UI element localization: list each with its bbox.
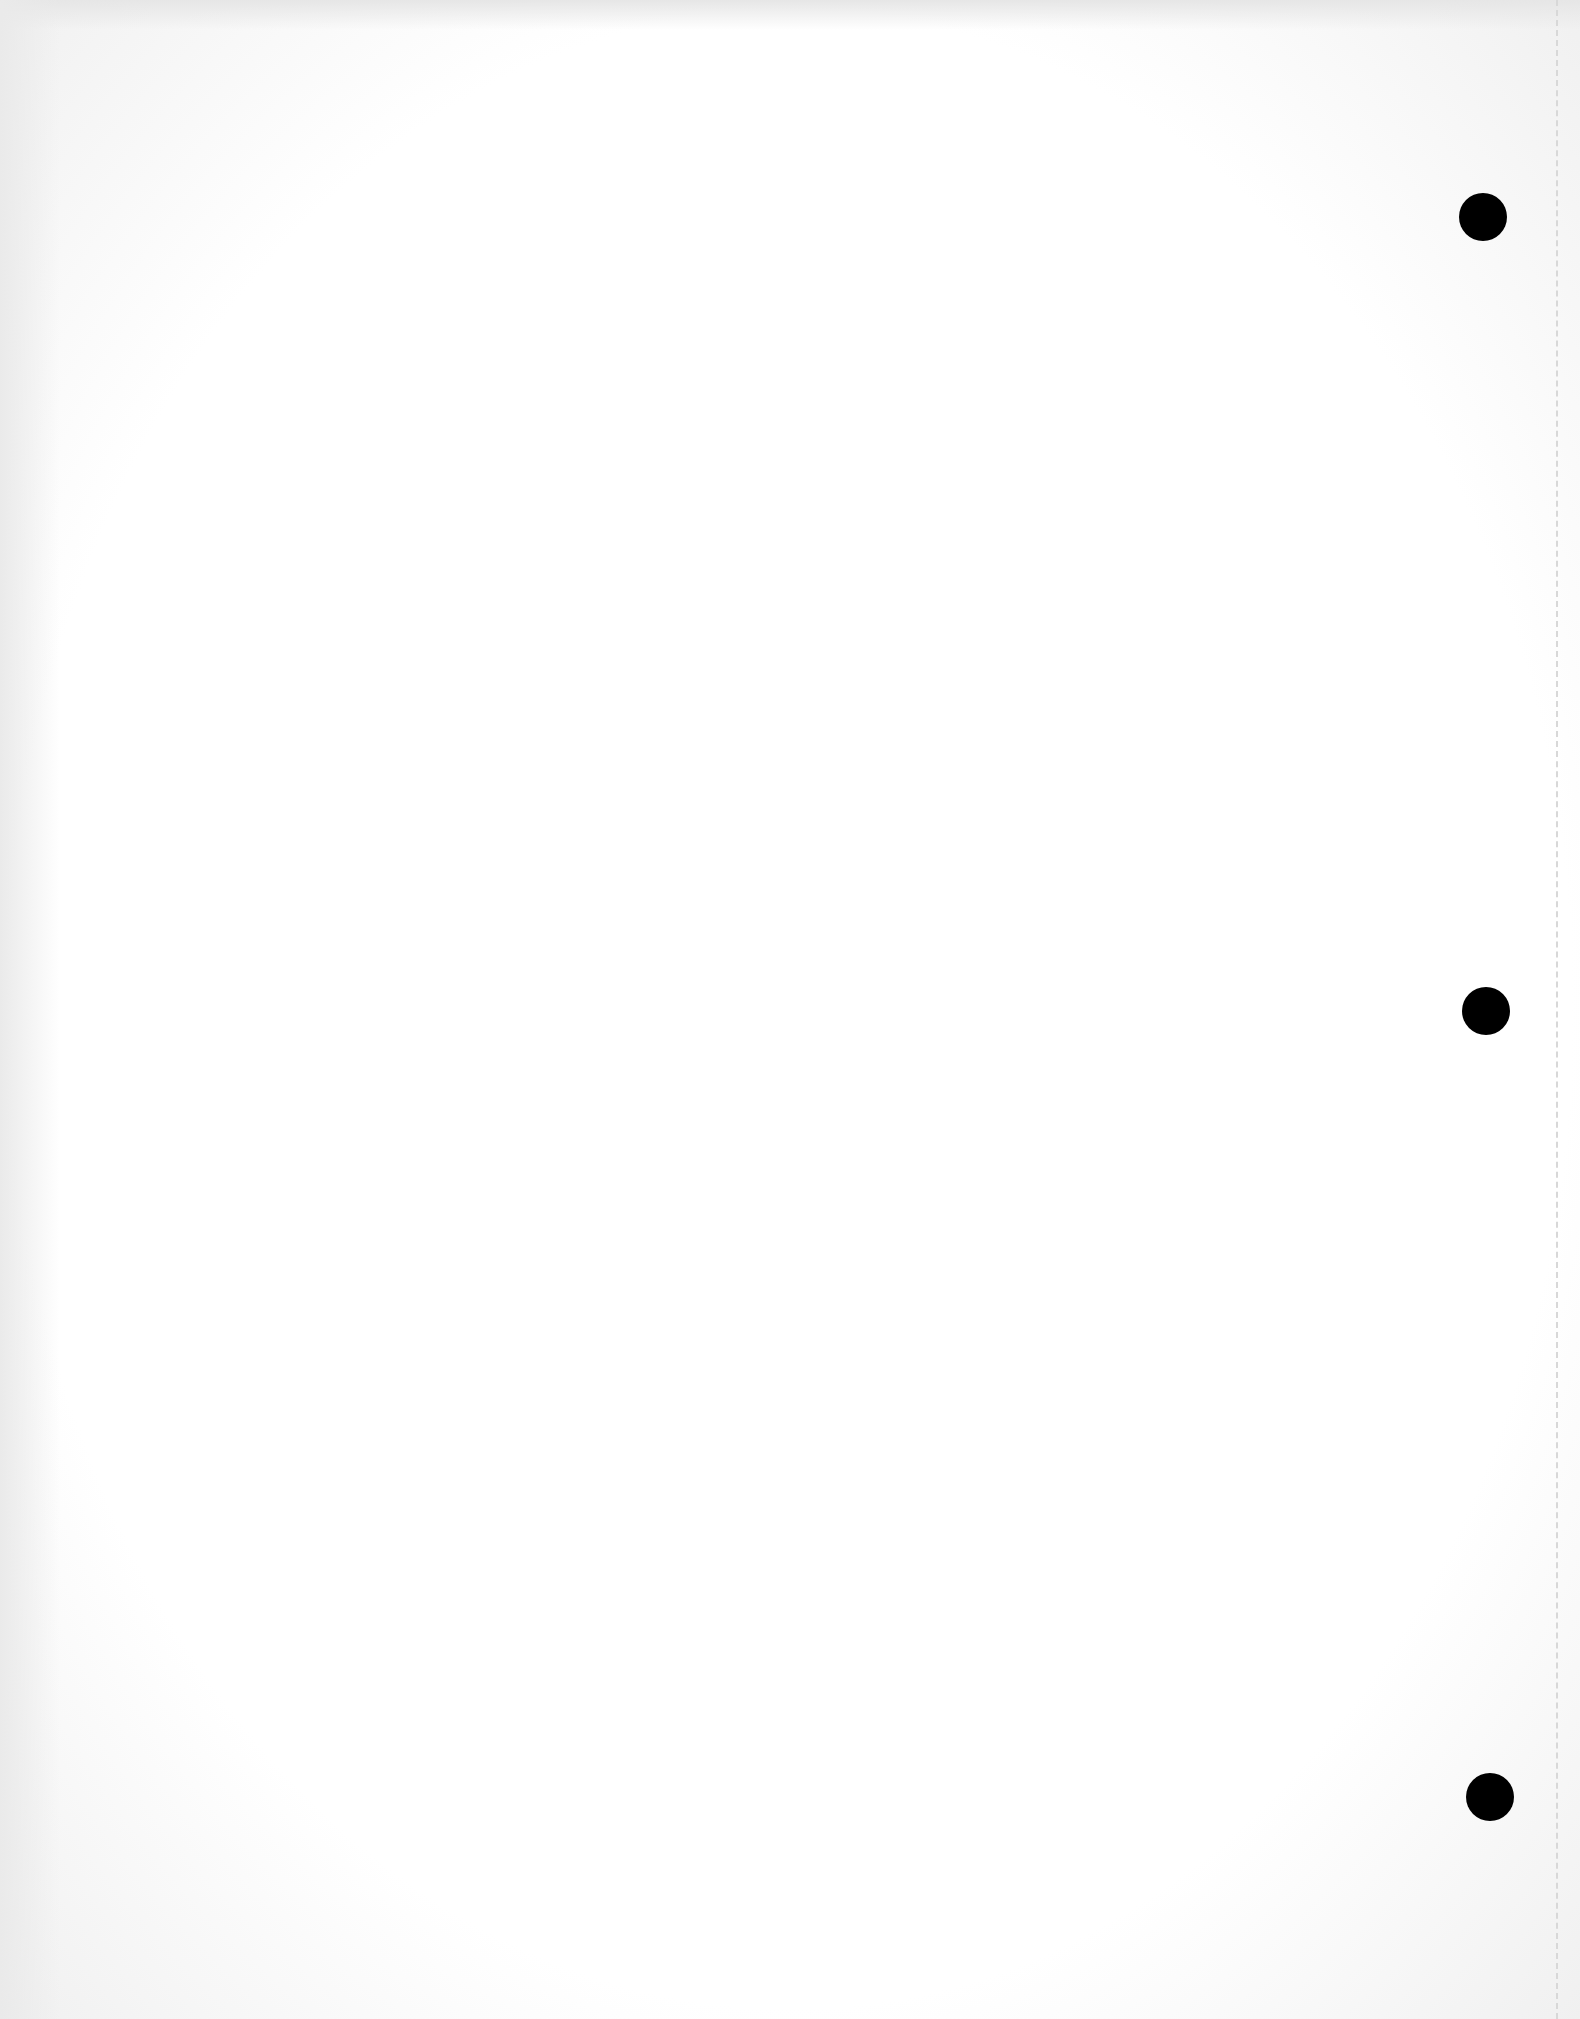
punch-hole-bottom — [1466, 1773, 1514, 1821]
scan-shadow-left — [0, 0, 60, 2019]
scan-shadow-top — [0, 0, 1580, 30]
perforation-line — [1556, 0, 1558, 2019]
blank-page — [0, 0, 1580, 2019]
punch-hole-top — [1459, 193, 1507, 241]
punch-hole-middle — [1462, 987, 1510, 1035]
